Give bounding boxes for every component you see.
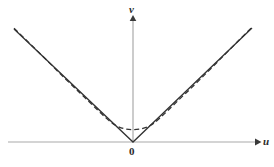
plot-canvas: [0, 0, 274, 167]
vertical-axis-label: v: [129, 4, 134, 15]
figure-container: v u 0: [0, 0, 274, 167]
vertical-axis-arrow-icon: [130, 15, 137, 21]
horizontal-axis-label: u: [263, 136, 269, 147]
horizontal-axis-arrow-icon: [255, 139, 262, 146]
origin-label: 0: [129, 146, 135, 157]
